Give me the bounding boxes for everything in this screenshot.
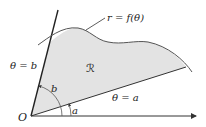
ray-a-label: θ = a (112, 92, 139, 103)
polar-region-diagram: r = f(θ) θ = b ℛ b θ = a a O (0, 0, 206, 127)
region-label: ℛ (86, 62, 95, 75)
origin-label: O (18, 111, 27, 124)
region-shading (31, 28, 186, 116)
angle-b-label: b (51, 83, 57, 94)
curve-label: r = f(θ) (107, 12, 144, 23)
angle-a-label: a (72, 105, 78, 116)
ray-b-label: θ = b (10, 60, 37, 71)
curve-label-leader (86, 18, 105, 30)
angle-arc-a (69, 104, 71, 116)
